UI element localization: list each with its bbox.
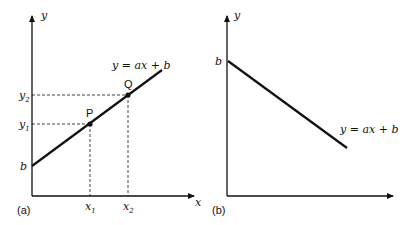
guide-lines-a bbox=[32, 95, 128, 196]
caption-a: (a) bbox=[17, 204, 30, 216]
y2-label: y2 bbox=[18, 89, 30, 104]
line-negative bbox=[228, 61, 347, 148]
caption-b: (b) bbox=[212, 204, 225, 216]
y-axis-label-a: y bbox=[40, 9, 48, 22]
x1-label: x1 bbox=[85, 200, 96, 215]
panel-b: y b y = ax + b (b) bbox=[212, 9, 398, 216]
line-positive bbox=[32, 70, 162, 166]
point-q bbox=[125, 92, 130, 97]
intercept-b-b: b bbox=[215, 55, 222, 68]
x2-label: x2 bbox=[123, 200, 134, 215]
point-p bbox=[87, 121, 92, 126]
intercept-b-a: b bbox=[20, 160, 27, 173]
x-axis-label-a: x bbox=[195, 196, 202, 209]
y1-label: y1 bbox=[18, 118, 30, 133]
point-p-label: P bbox=[86, 107, 93, 119]
diagram-canvas: y x P Q y = ax + b b y2 y1 x1 x2 (a) y b… bbox=[0, 0, 411, 225]
point-q-label: Q bbox=[124, 78, 133, 90]
equation-b: y = ax + b bbox=[339, 123, 398, 136]
equation-a: y = ax + b bbox=[111, 59, 170, 72]
y-axis-label-b: y bbox=[233, 9, 241, 22]
panel-a: y x P Q y = ax + b b y2 y1 x1 x2 (a) bbox=[17, 9, 202, 216]
